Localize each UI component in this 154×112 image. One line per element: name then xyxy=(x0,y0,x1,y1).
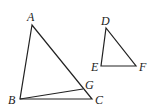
triangle-def-outline xyxy=(101,28,136,66)
label-g: G xyxy=(85,78,94,92)
label-e: E xyxy=(90,60,99,74)
label-f: F xyxy=(138,60,147,74)
geometry-diagram: A B C G D E F xyxy=(0,0,154,112)
label-c: C xyxy=(95,93,104,107)
label-d: D xyxy=(100,14,110,28)
segment-bg xyxy=(20,89,83,99)
triangle-abc: A B C G xyxy=(8,10,104,107)
label-b: B xyxy=(8,93,16,107)
triangle-abc-outline xyxy=(20,25,92,99)
label-a: A xyxy=(26,10,35,24)
triangle-def: D E F xyxy=(90,14,147,74)
